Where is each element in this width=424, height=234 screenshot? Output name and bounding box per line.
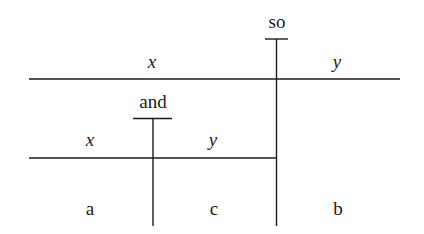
region-c: c	[210, 198, 218, 219]
region-a: a	[86, 198, 95, 219]
outer-connective-label: so	[269, 11, 286, 32]
inner-left-label: x	[85, 129, 95, 150]
inner-right-label: y	[207, 129, 218, 150]
inner-connective-label: and	[139, 91, 167, 112]
outer-left-label: x	[147, 51, 157, 72]
diagram: so x y and x y a c b	[0, 0, 424, 234]
outer-right-label: y	[331, 51, 342, 72]
region-b: b	[333, 198, 343, 219]
